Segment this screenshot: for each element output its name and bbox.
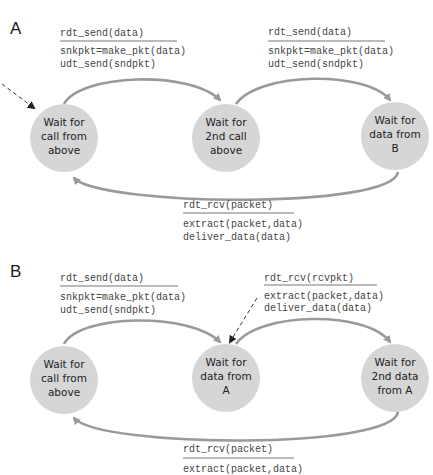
svg-text:udt_send(sndpkt): udt_send(sndpkt) (60, 59, 156, 70)
state-b-wait-2nd-data: Wait for 2nd data from A (361, 344, 429, 412)
svg-text:Wait for: Wait for (375, 114, 417, 126)
svg-text:deliver_data(data): deliver_data(data) (183, 232, 291, 243)
transition-arc-a2 (236, 79, 390, 104)
transition-label-b2: rdt_rcv(rcvpkt) extract(packet,data) del… (264, 273, 384, 314)
state-b-wait-call: Wait for call from above (30, 346, 98, 414)
svg-text:Wait for: Wait for (206, 356, 248, 368)
svg-text:udt_send(sndpkt): udt_send(sndpkt) (60, 305, 156, 316)
state-b-wait-data-a: Wait for data from A (192, 344, 260, 412)
svg-text:from A: from A (378, 384, 414, 396)
svg-text:Wait for: Wait for (375, 356, 417, 368)
transition-arc-b3 (74, 412, 398, 441)
svg-text:snkpkt=make_pkt(data): snkpkt=make_pkt(data) (60, 292, 186, 303)
transition-label-b1: rdt_send(data) snkpkt=make_pkt(data) udt… (60, 273, 186, 316)
transition-arc-b1 (64, 320, 220, 344)
svg-text:data from: data from (369, 128, 420, 140)
svg-text:rdt_send(data): rdt_send(data) (60, 28, 144, 39)
panel-b-label: B (10, 262, 21, 281)
svg-text:rdt_rcv(packet): rdt_rcv(packet) (183, 444, 273, 455)
panel-a: A Wait for call from above Wait for 2nd … (2, 19, 429, 243)
svg-text:above: above (48, 144, 80, 156)
svg-text:Wait for: Wait for (206, 116, 248, 128)
svg-text:extract(packet,data): extract(packet,data) (264, 291, 384, 302)
svg-text:above: above (210, 144, 242, 156)
state-a-wait-data-b: Wait for data from B (361, 102, 429, 170)
svg-text:above: above (48, 386, 80, 398)
svg-text:rdt_send(data): rdt_send(data) (60, 273, 144, 284)
svg-text:call from: call from (41, 372, 87, 384)
svg-text:rdt_send(data): rdt_send(data) (268, 27, 352, 38)
panel-a-label: A (10, 19, 22, 38)
transition-arc-a1 (64, 79, 220, 104)
svg-text:deliver_data(data): deliver_data(data) (264, 303, 372, 314)
svg-text:Wait for: Wait for (44, 358, 86, 370)
svg-text:udt_send(sndpkt): udt_send(sndpkt) (268, 59, 364, 70)
transition-label-a2: rdt_send(data) snkpkt=make_pkt(data) udt… (268, 27, 394, 70)
svg-text:snkpkt=make_pkt(data): snkpkt=make_pkt(data) (60, 46, 186, 57)
svg-text:extract(packet,data): extract(packet,data) (183, 464, 303, 475)
svg-text:snkpkt=make_pkt(data): snkpkt=make_pkt(data) (268, 46, 394, 57)
fsm-diagram: A Wait for call from above Wait for 2nd … (0, 0, 433, 475)
transition-label-a3: rdt_rcv(packet) extract(packet,data) del… (183, 200, 303, 243)
state-a-wait-2nd-call: Wait for 2nd call above (192, 104, 260, 172)
svg-text:A: A (222, 384, 230, 396)
transition-arc-b2 (236, 319, 390, 344)
svg-text:Wait for: Wait for (44, 116, 86, 128)
transition-label-b3: rdt_rcv(packet) extract(packet,data) (183, 444, 303, 475)
svg-text:rdt_rcv(packet): rdt_rcv(packet) (183, 200, 273, 211)
transition-arc-a3 (74, 172, 398, 200)
svg-text:extract(packet,data): extract(packet,data) (183, 219, 303, 230)
svg-text:2nd call: 2nd call (205, 130, 246, 142)
svg-text:B: B (391, 142, 398, 154)
initial-state-arrow (2, 84, 34, 108)
svg-text:data from: data from (200, 370, 251, 382)
panel-b: B Wait for call from above Wait for data… (10, 262, 429, 475)
svg-text:rdt_rcv(rcvpkt): rdt_rcv(rcvpkt) (264, 273, 354, 284)
state-a-wait-call: Wait for call from above (30, 104, 98, 172)
svg-text:call from: call from (41, 130, 87, 142)
svg-text:2nd data: 2nd data (372, 370, 419, 382)
transition-label-a1: rdt_send(data) snkpkt=make_pkt(data) udt… (60, 28, 186, 70)
